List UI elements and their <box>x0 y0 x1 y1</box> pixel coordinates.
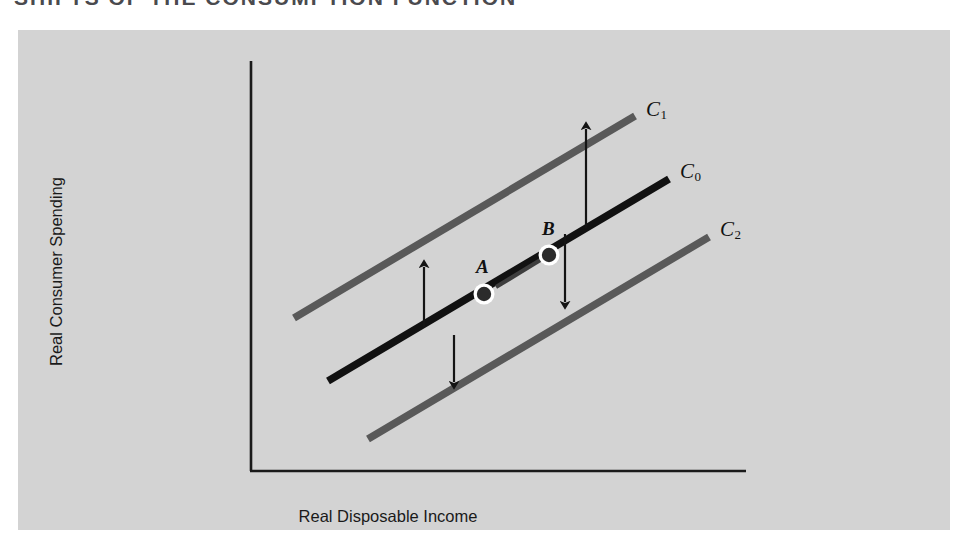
point-label-b: B <box>542 218 555 240</box>
heading-clip: SHIFTS OF THE CONSUMPTION FUNCTION <box>0 0 970 13</box>
curve-c2 <box>368 237 709 439</box>
consumption-function-plot <box>18 30 950 530</box>
curve-label-c1-base: C <box>646 97 660 121</box>
axis-lines <box>250 61 746 471</box>
figure-panel: C1 C0 C2 A B Real Disposable Income Real… <box>18 30 950 530</box>
figure-page: SHIFTS OF THE CONSUMPTION FUNCTION <box>0 0 970 551</box>
point-a-marker <box>474 284 495 305</box>
curve-label-c0: C0 <box>680 159 701 185</box>
y-axis-title: Real Consumer Spending <box>47 142 66 402</box>
curve-label-c1: C1 <box>646 97 667 123</box>
curve-label-c0-sub: 0 <box>695 169 702 184</box>
curve-label-c2: C2 <box>720 217 741 243</box>
movement-arrow-a-to-b <box>496 259 542 287</box>
curve-label-c2-sub: 2 <box>735 227 742 242</box>
curve-label-c1-sub: 1 <box>661 107 668 122</box>
curve-c0 <box>328 179 669 381</box>
page-title: SHIFTS OF THE CONSUMPTION FUNCTION <box>14 0 517 10</box>
x-axis-title: Real Disposable Income <box>18 507 758 526</box>
curve-label-c2-base: C <box>720 217 734 241</box>
curve-label-c0-base: C <box>680 159 694 183</box>
curve-c1 <box>294 116 635 318</box>
point-label-a: A <box>476 256 489 278</box>
point-b-marker <box>539 245 560 266</box>
